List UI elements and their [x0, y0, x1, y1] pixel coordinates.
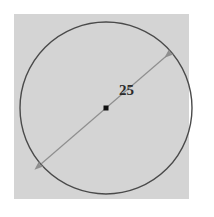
- diagram-panel: [14, 14, 189, 199]
- figure-root: . .. . . . . ... . . 25: [0, 0, 214, 217]
- diameter-measurement-label: 25: [119, 83, 134, 98]
- clipped-text-remnant-glyphs: . .. . . . . ... . .: [2, 0, 61, 2]
- clipped-text-remnant: . .. . . . . ... . .: [0, 0, 214, 11]
